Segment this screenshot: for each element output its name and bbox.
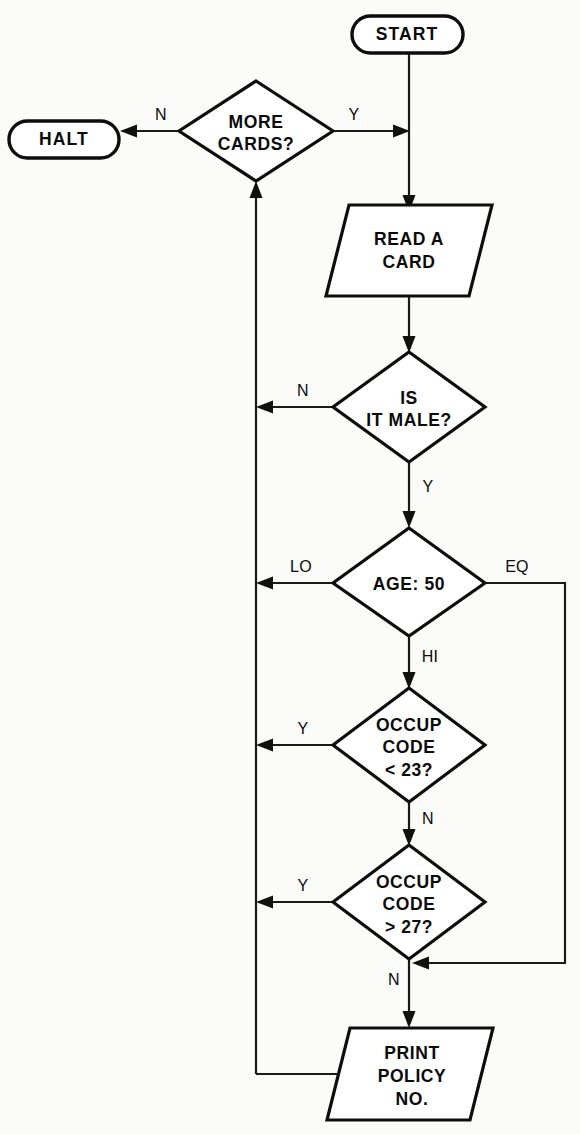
io-read-a-card-label-line2: CARD bbox=[383, 252, 436, 272]
io-read-a-card-label-line1: READ A bbox=[374, 229, 444, 249]
edge-label-occup23-yes: Y bbox=[298, 720, 309, 737]
edge-label-is-it-male-yes: Y bbox=[423, 478, 434, 495]
terminator-halt-label: HALT bbox=[39, 129, 89, 149]
edge-label-more-cards-no: N bbox=[155, 106, 167, 123]
io-print-policy-label-line3: NO. bbox=[396, 1089, 429, 1109]
decision-occup-lt-23-label-line3: < 23? bbox=[385, 760, 433, 780]
edge-label-occup23-no: N bbox=[422, 810, 434, 827]
decision-age-50-label: AGE: 50 bbox=[373, 574, 445, 594]
edge-label-occup27-no: N bbox=[388, 971, 400, 988]
edge-label-age-hi: HI bbox=[422, 648, 439, 665]
decision-occup-gt-27-label-line2: CODE bbox=[383, 894, 436, 914]
arrowhead-age-lo bbox=[256, 577, 273, 590]
decision-occup-lt-23-label-line2: CODE bbox=[383, 737, 436, 757]
arrowhead-male-no bbox=[256, 401, 273, 414]
edge-label-age-eq: EQ bbox=[505, 558, 529, 575]
flowchart-svg: START HALT MORE CARDS? READ A CARD IS IT… bbox=[0, 0, 580, 1134]
decision-occup-gt-27-label-line1: OCCUP bbox=[376, 872, 442, 892]
edge-label-occup27-yes: Y bbox=[298, 877, 309, 894]
edge-label-more-cards-yes: Y bbox=[349, 106, 360, 123]
arrowhead-occup23-yes bbox=[256, 739, 273, 752]
flowchart-canvas: START HALT MORE CARDS? READ A CARD IS IT… bbox=[0, 0, 580, 1134]
decision-is-it-male-label-line2: IT MALE? bbox=[366, 410, 451, 430]
arrowhead-print-in bbox=[403, 1011, 416, 1028]
edge-label-is-it-male-no: N bbox=[297, 382, 309, 399]
decision-occup-gt-27-label-line3: > 27? bbox=[385, 917, 433, 937]
io-print-policy-label-line2: POLICY bbox=[378, 1066, 447, 1086]
decision-is-it-male-label-line1: IS bbox=[400, 388, 418, 408]
arrowhead-more-cards-yes bbox=[393, 125, 410, 138]
io-read-a-card bbox=[326, 205, 492, 296]
arrowhead-age-eq-return bbox=[412, 957, 429, 970]
decision-occup-lt-23-label-line1: OCCUP bbox=[376, 715, 442, 735]
decision-more-cards-label-line2: CARDS? bbox=[218, 134, 295, 154]
edge-label-age-lo: LO bbox=[290, 558, 312, 575]
terminator-start-label: START bbox=[376, 24, 439, 44]
arrowhead-occup27-yes bbox=[256, 896, 273, 909]
io-print-policy-label-line1: PRINT bbox=[384, 1043, 440, 1063]
decision-more-cards-label-line1: MORE bbox=[229, 112, 284, 132]
arrowhead-age-in bbox=[403, 511, 416, 528]
arrowhead-return-into-more-cards bbox=[250, 181, 263, 198]
arrowhead-halt-in bbox=[120, 125, 137, 138]
